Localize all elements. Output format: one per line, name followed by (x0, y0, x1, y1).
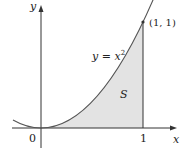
curve-equation-label: y = x2 (92, 50, 125, 62)
curve-label-exp: 2 (121, 49, 125, 57)
x-axis-arrow-icon (170, 126, 177, 131)
point-1-1 (141, 20, 144, 23)
region-s-fill (41, 22, 143, 128)
curve-label-eq: = (102, 50, 111, 63)
x-axis-label: x (173, 134, 179, 145)
point-label: (1, 1) (149, 18, 176, 28)
tick-x1-label: 1 (140, 133, 147, 144)
y-axis-arrow-icon (39, 5, 44, 12)
origin-label: 0 (29, 133, 36, 144)
region-label: S (120, 89, 128, 100)
parabola-area-diagram: y x 0 1 (1, 1) y = x2 S (0, 0, 189, 161)
curve-label-lhs: y (92, 50, 98, 63)
y-axis-label: y (30, 1, 36, 12)
